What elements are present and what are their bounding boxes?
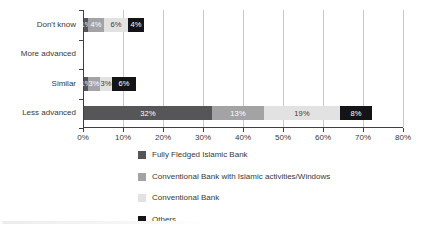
x-tick-label: 30% [188, 134, 218, 142]
x-tick-label: 60% [308, 134, 338, 142]
bar-segment: 4% [128, 18, 144, 32]
category-label: Don't know [0, 21, 76, 29]
bar-row-less-advanced: 32%13%19%8% [84, 106, 372, 120]
bar-segment-label: 3% [100, 80, 111, 88]
x-axis-tick [323, 128, 324, 132]
category-label: More advanced [0, 50, 76, 58]
bar-segment-label: 8% [350, 110, 361, 118]
stacked-bar-chart: 1%4%6%4%1%3%3%6%32%13%19%8% Don't knowMo… [0, 0, 423, 227]
legend-item: Fully Fledged Islamic Bank [138, 151, 248, 159]
bar-segment: 6% [112, 77, 136, 91]
x-tick-label: 20% [148, 134, 178, 142]
bar-segment: 3% [100, 77, 112, 91]
bar-segment-label: 6% [118, 80, 129, 88]
legend-item: Conventional Bank [138, 194, 219, 202]
x-axis-tick [283, 128, 284, 132]
legend-item: Conventional Bank with Islamic activitie… [138, 173, 330, 181]
bar-row-similar: 1%3%3%6% [84, 77, 136, 91]
legend-swatch-icon [138, 194, 146, 202]
x-tick-label: 40% [228, 134, 258, 142]
legend-label: Conventional Bank with Islamic activitie… [152, 173, 330, 181]
x-axis-tick [363, 128, 364, 132]
x-tick-label: 70% [348, 134, 378, 142]
bar-segment: 13% [212, 106, 264, 120]
x-axis-tick [243, 128, 244, 132]
x-axis-tick [203, 128, 204, 132]
bar-segment: 8% [340, 106, 372, 120]
bar-segment-label: 19% [294, 110, 310, 118]
legend-swatch-icon [138, 151, 146, 159]
bar-segment: 3% [88, 77, 100, 91]
bar-segment: 32% [84, 106, 212, 120]
legend-swatch-icon [138, 173, 146, 181]
category-label: Less advanced [0, 109, 76, 117]
x-tick-label: 10% [108, 134, 138, 142]
x-tick-label: 80% [388, 134, 418, 142]
bar-segment: 4% [88, 18, 104, 32]
x-tick-label: 50% [268, 134, 298, 142]
legend-label: Conventional Bank [152, 194, 219, 202]
bar-segment: 6% [104, 18, 128, 32]
gridline [403, 10, 404, 127]
y-axis-tick [79, 10, 83, 11]
x-axis-tick [123, 128, 124, 132]
bar-segment-label: 13% [230, 110, 246, 118]
bar-segment-label: 3% [88, 80, 99, 88]
bar-segment-label: 4% [90, 21, 101, 29]
bar-segment: 19% [264, 106, 340, 120]
category-label: Similar [0, 80, 76, 88]
y-axis-tick [79, 69, 83, 70]
x-axis-tick [83, 128, 84, 132]
x-tick-label: 0% [68, 134, 98, 142]
x-axis-tick [403, 128, 404, 132]
bar-segment-label: 4% [130, 21, 141, 29]
bar-row-don-t-know: 1%4%6%4% [84, 18, 144, 32]
legend-label: Fully Fledged Islamic Bank [152, 151, 248, 159]
y-axis-tick [79, 99, 83, 100]
y-axis-tick [79, 40, 83, 41]
bar-segment-label: 6% [110, 21, 121, 29]
bar-segment-label: 32% [140, 110, 156, 118]
scan-artifact [2, 221, 207, 224]
x-axis-tick [163, 128, 164, 132]
plot-area: 1%4%6%4%1%3%3%6%32%13%19%8% [83, 10, 403, 128]
